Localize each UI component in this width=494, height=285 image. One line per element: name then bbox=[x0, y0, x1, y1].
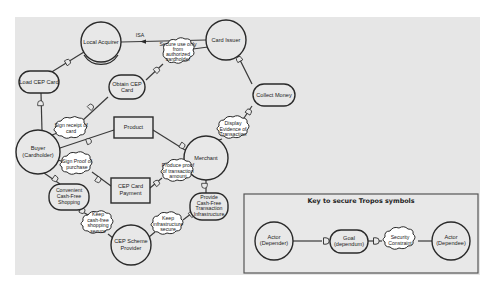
goal-convenient-cash-free-shopping[interactable]: Convenient Cash-Free Shopping bbox=[49, 184, 89, 210]
legend-actor-dependee: Actor (Dependee) bbox=[432, 222, 470, 260]
actor-label: (Cardholder) bbox=[22, 152, 54, 158]
legend-key: Key to secure Tropos symbols Actor (Depe… bbox=[244, 194, 478, 273]
constraint-label: secure bbox=[90, 228, 106, 234]
legend-title: Key to secure Tropos symbols bbox=[307, 197, 414, 205]
secure-tropos-diagram: ISA Local Acquirer Card Issuer Buyer (Ca… bbox=[0, 0, 494, 285]
legend-goal: Goal (dependum) bbox=[330, 230, 368, 253]
constraint-label: Transaction bbox=[220, 131, 247, 137]
goal-label: Card bbox=[121, 87, 133, 93]
legend-label: (Dependee) bbox=[436, 240, 466, 246]
constraint-label: purchase bbox=[66, 164, 87, 170]
constraint-label: secure bbox=[160, 226, 176, 232]
isa-label: ISA bbox=[136, 32, 145, 38]
resource-product[interactable]: Product bbox=[114, 117, 153, 138]
resource-cep-card-payment[interactable]: CEP Card Payment bbox=[111, 178, 150, 203]
constraint-label: amount bbox=[169, 173, 187, 179]
actor-cep-scheme-provider[interactable]: CEP Scheme Provider bbox=[111, 225, 151, 265]
resource-label: Payment bbox=[119, 190, 142, 196]
actor-label: Merchant bbox=[194, 155, 218, 161]
constraint-label: card bbox=[66, 128, 76, 134]
goal-label: Load CEP Card bbox=[19, 79, 58, 85]
legend-label: (Depender) bbox=[260, 240, 288, 246]
actor-card-issuer[interactable]: Card Issuer bbox=[206, 20, 246, 60]
legend-label: (dependum) bbox=[334, 241, 364, 247]
resource-label: Product bbox=[124, 124, 144, 130]
actor-label: Local Acquirer bbox=[83, 39, 119, 45]
legend-actor-depender: Actor (Depender) bbox=[255, 222, 293, 260]
actor-label: Provider bbox=[121, 245, 142, 251]
legend-label: Constraint bbox=[388, 240, 412, 246]
goal-collect-money[interactable]: Collect Money bbox=[253, 84, 295, 106]
goal-label: Shopping bbox=[58, 199, 80, 205]
actor-label: Card Issuer bbox=[212, 37, 241, 43]
actor-label: Buyer bbox=[31, 145, 46, 151]
resource-label: CEP Card bbox=[118, 183, 143, 189]
goal-obtain-cep-card[interactable]: Obtain CEP Card bbox=[109, 75, 145, 99]
actor-buyer[interactable]: Buyer (Cardholder) bbox=[16, 130, 60, 174]
goal-provide-cash-free-infrastructure[interactable]: Provide Cash-Free Transaction Infrastruc… bbox=[190, 193, 228, 220]
constraint-label: cardholder bbox=[166, 56, 191, 62]
goal-load-cep-card[interactable]: Load CEP Card bbox=[19, 71, 59, 93]
actor-label: CEP Scheme bbox=[114, 238, 147, 244]
actor-local-acquirer[interactable]: Local Acquirer bbox=[81, 22, 121, 64]
goal-label: Infrastructure bbox=[194, 211, 225, 217]
goal-label: Collect Money bbox=[256, 92, 292, 98]
